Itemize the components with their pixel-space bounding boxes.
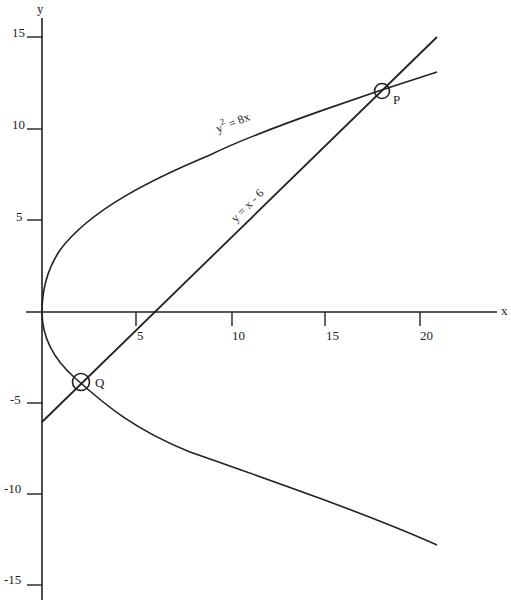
y-ticks: 15 10 5 -5 -10 -15 xyxy=(4,25,42,587)
y-axis-label: y xyxy=(37,1,44,16)
line-y-equals-x-minus-6 xyxy=(42,37,437,422)
line-label: y = x - 6 xyxy=(228,186,266,225)
x-tick-label: 10 xyxy=(232,328,245,343)
x-tick-label: 15 xyxy=(326,328,339,343)
y-tick-label: -10 xyxy=(4,481,21,496)
point-q-label: Q xyxy=(95,375,105,390)
x-tick-label: 5 xyxy=(137,328,144,343)
parabola-label: y2 = 8x xyxy=(213,107,252,136)
diagram-canvas: y x 15 10 5 -5 -10 -15 5 10 15 20 P Q y xyxy=(0,0,511,605)
svg-text:y2 = 8x: y2 = 8x xyxy=(213,107,252,136)
x-tick-label: 20 xyxy=(420,328,433,343)
y-tick-label: -5 xyxy=(10,392,21,407)
parabola-curve xyxy=(42,72,437,545)
y-tick-label: 10 xyxy=(12,117,25,132)
y-tick-label: -15 xyxy=(4,572,21,587)
point-q-marker xyxy=(73,374,90,391)
y-tick-label: 15 xyxy=(12,25,25,40)
svg-text:y = x - 6: y = x - 6 xyxy=(228,186,266,225)
x-ticks: 5 10 15 20 xyxy=(136,312,433,343)
point-p-label: P xyxy=(393,92,400,107)
y-tick-label: 5 xyxy=(16,209,23,224)
x-axis-label: x xyxy=(501,303,508,318)
